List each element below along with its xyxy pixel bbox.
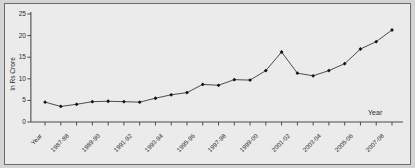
y-tick-label: 5 (22, 97, 26, 104)
data-series-line (45, 30, 392, 106)
data-point-marker (248, 78, 252, 82)
data-point-marker (185, 91, 189, 95)
axis-lines (31, 12, 403, 122)
figure-frame: 05101520251987-881989-901991-921993-9419… (0, 0, 415, 168)
data-series-markers (43, 28, 394, 108)
data-point-marker (43, 100, 47, 104)
data-point-marker (90, 100, 94, 104)
data-point-marker (122, 100, 126, 104)
data-point-marker (154, 96, 158, 100)
y-tick-label: 20 (19, 32, 26, 39)
data-point-marker (232, 78, 236, 82)
chart-plate: 05101520251987-881989-901991-921993-9419… (4, 3, 411, 165)
data-point-marker (169, 93, 173, 97)
data-point-marker (138, 100, 142, 104)
data-point-marker (311, 74, 315, 78)
data-point-marker (106, 99, 110, 103)
data-point-marker (217, 83, 221, 87)
y-tick-label: 0 (22, 119, 26, 126)
y-tick-label: 25 (19, 11, 26, 18)
data-point-marker (327, 69, 331, 73)
y-tick-label: 15 (19, 54, 26, 61)
data-point-marker (59, 105, 63, 109)
x-axis-title: Year (368, 109, 382, 116)
data-point-marker (75, 102, 79, 106)
y-tick-label: 10 (19, 76, 26, 83)
data-point-marker (201, 83, 205, 87)
y-axis-title: In Rs Crore (10, 57, 17, 91)
